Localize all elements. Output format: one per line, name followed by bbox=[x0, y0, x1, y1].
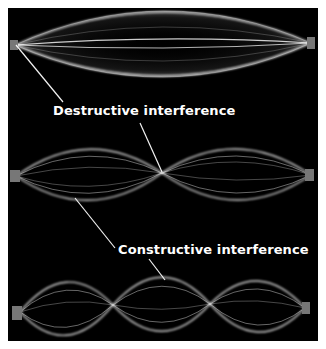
destructive-pointer-to-middle-node bbox=[140, 123, 162, 172]
destructive-interference-label: Destructive interference bbox=[53, 103, 235, 119]
wave-third-harmonic bbox=[12, 277, 310, 335]
string-clamp-right bbox=[302, 302, 310, 314]
string-clamp-right bbox=[307, 37, 315, 49]
string-clamp-right bbox=[305, 169, 314, 181]
wave-second-harmonic bbox=[10, 149, 314, 200]
standing-waves-illustration bbox=[0, 0, 326, 349]
wave-fundamental bbox=[10, 11, 315, 77]
constructive-pointer-to-bottom-antinode bbox=[149, 259, 165, 280]
constructive-interference-label: Constructive interference bbox=[118, 242, 309, 258]
string-clamp-left bbox=[12, 306, 22, 320]
string-clamp-left bbox=[10, 40, 18, 50]
string-clamp-left bbox=[10, 170, 20, 182]
constructive-pointer-to-middle-antinode bbox=[75, 198, 115, 248]
